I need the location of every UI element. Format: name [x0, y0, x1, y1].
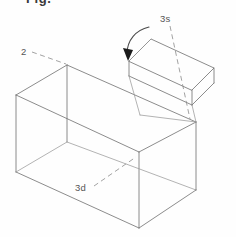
- lid-box-flap-left: [129, 76, 140, 115]
- main-box-edge-right-bottom: [139, 190, 196, 228]
- main-box-edge-front-bottom: [16, 172, 139, 228]
- lid-box-flap-right: [192, 105, 196, 122]
- main-box-edge-right-rim: [139, 122, 196, 152]
- figure-canvas: Fig.: [0, 0, 236, 237]
- leader-line-2: [32, 52, 66, 64]
- leader-lines-group: [32, 26, 190, 186]
- main-box-group: [16, 65, 196, 228]
- line-drawing-svg: 2 3d 3s: [0, 0, 236, 237]
- main-box-edge-inner-bottom: [67, 142, 196, 190]
- lid-box-top-face: [129, 39, 214, 90]
- lid-box-group: [129, 39, 214, 122]
- main-box-edge-top-left-rim: [16, 65, 67, 95]
- lid-box-edge-bottom-front: [129, 76, 192, 105]
- labels-group: 2 3d 3s: [21, 13, 170, 193]
- label-3d: 3d: [75, 182, 86, 193]
- label-2: 2: [21, 46, 26, 57]
- main-box-edge-inner-bottom-left: [16, 142, 67, 172]
- rotation-arrow-group: [123, 27, 149, 61]
- leader-line-3d: [94, 157, 136, 186]
- leader-line-3s: [170, 26, 190, 119]
- main-box-edge-front-top: [16, 95, 139, 152]
- label-3s: 3s: [160, 13, 170, 24]
- main-box-edge-back-top-rim: [67, 65, 196, 122]
